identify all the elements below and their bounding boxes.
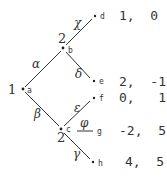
payoff-g: -2, 5	[119, 123, 166, 138]
node-b-player: 2	[58, 31, 66, 46]
edge-beta	[25, 92, 59, 126]
action-alpha: α	[32, 57, 40, 71]
payoff-d: 1, 0	[119, 8, 158, 23]
node-h-dot	[92, 161, 94, 163]
payoff-e: 2, -1	[119, 74, 166, 89]
node-f-dot	[93, 97, 95, 99]
node-a-label: a	[27, 86, 32, 95]
payoff-h: 4, 5	[125, 154, 164, 169]
action-phi: φ	[80, 116, 89, 130]
node-g-label: g	[97, 127, 102, 136]
node-d-dot	[94, 15, 96, 17]
node-b-dot	[62, 47, 65, 50]
edge-alpha	[25, 51, 61, 87]
node-a-player: 1	[8, 82, 16, 97]
action-delta: δ	[75, 67, 82, 81]
node-h-label: h	[98, 159, 103, 168]
node-d-label: d	[100, 12, 105, 21]
node-e-dot	[93, 80, 95, 82]
game-tree: α β χ δ ε φ γ 1 a 2 b 2 c d 1, 0 e 2, -1…	[0, 0, 167, 179]
action-beta: β	[33, 107, 41, 121]
action-epsilon: ε	[74, 101, 80, 115]
node-e-label: e	[99, 77, 104, 86]
payoff-f: 0, 1	[119, 90, 166, 105]
action-gamma: γ	[73, 147, 81, 161]
node-c-label: c	[66, 125, 71, 134]
node-f-label: f	[99, 94, 104, 103]
node-b-label: b	[68, 46, 73, 55]
node-c-player: 2	[57, 130, 65, 145]
node-a-dot	[22, 88, 25, 91]
action-chi: χ	[73, 16, 82, 30]
